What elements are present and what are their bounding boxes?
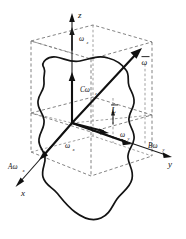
projection-line-y xyxy=(72,115,152,123)
A-omega-subscript: x xyxy=(22,168,26,173)
omega-x-label: ω x xyxy=(65,142,76,152)
y-axis-arrowhead xyxy=(163,152,172,158)
omega-y-subscript: y xyxy=(127,136,131,141)
L-vector-line xyxy=(72,123,103,131)
B-omega-text: Bω xyxy=(148,142,157,150)
L-vector-label: L xyxy=(111,105,119,116)
omega-overbar xyxy=(142,56,150,57)
omega-x-symbol: ω xyxy=(65,142,70,150)
box-base-edges xyxy=(31,152,152,176)
C-omega-z-label: Cω z xyxy=(80,86,97,96)
omega-resultant-label: ω xyxy=(142,56,150,67)
vector-decomposition-diagram: z y x ω z ω Cω z L xyxy=(0,0,186,239)
C-omega-subscript: z xyxy=(94,91,97,96)
omega-z-subscript: z xyxy=(86,40,89,45)
omega-x-subscript: x xyxy=(72,147,76,152)
omega-symbol: ω xyxy=(142,58,148,67)
L-symbol: L xyxy=(111,106,117,115)
omega-x-line xyxy=(44,123,72,155)
z-axis-arrowhead xyxy=(69,13,75,22)
x-axis-label: x xyxy=(20,188,25,198)
L-vector-arrowhead xyxy=(99,129,109,135)
A-omega-x-label: Aω x xyxy=(7,163,26,173)
omega-z-arrowhead xyxy=(69,72,76,81)
C-omega-text: Cω xyxy=(80,86,90,94)
y-axis-label: y xyxy=(167,159,172,169)
omega-z-upper-label: ω z xyxy=(79,35,89,45)
B-omega-subscript: y xyxy=(162,147,166,152)
omega-z-symbol: ω xyxy=(79,35,84,43)
A-omega-text: Aω xyxy=(7,163,17,171)
omega-y-symbol: ω xyxy=(120,131,125,139)
z-axis-label: z xyxy=(77,10,82,20)
projection-line-x xyxy=(31,113,72,123)
figure-container: z y x ω z ω Cω z L xyxy=(0,0,186,239)
